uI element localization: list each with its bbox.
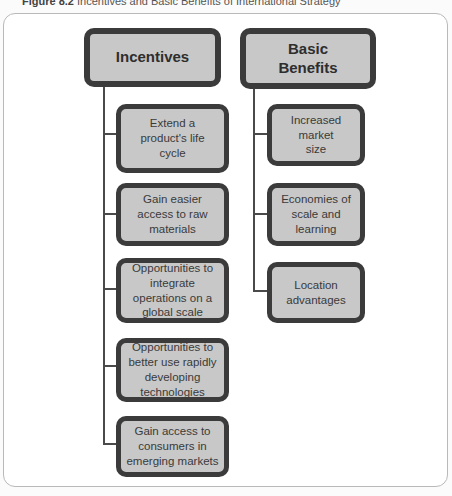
incentives-connector-1 bbox=[103, 133, 117, 135]
benefits-connector-1 bbox=[253, 133, 268, 135]
benefit-text-1: Increased market size bbox=[287, 113, 346, 158]
incentive-text-2: Gain easier access to raw materials bbox=[133, 192, 211, 237]
benefit-text-3: Location advantages bbox=[282, 278, 349, 308]
incentive-box-4: Opportunities to better use rapidly deve… bbox=[116, 338, 229, 402]
benefit-box-2: Economies of scale and learning bbox=[267, 183, 365, 246]
incentive-box-3: Opportunities to integrate operations on… bbox=[116, 258, 229, 323]
incentives-connector-3 bbox=[103, 288, 117, 290]
incentive-text-1: Extend a product's life cycle bbox=[136, 116, 208, 161]
incentives-header: Incentives bbox=[84, 28, 221, 87]
incentives-connector-2 bbox=[103, 213, 117, 215]
incentives-trunk-line bbox=[103, 87, 105, 444]
incentive-box-1: Extend a product's life cycle bbox=[116, 104, 229, 173]
basic-benefits-header: Basic Benefits bbox=[240, 28, 376, 89]
figure-title: Incentives and Basic Benefits of Interna… bbox=[77, 0, 341, 7]
benefits-connector-3 bbox=[253, 290, 268, 292]
figure-label: Figure 8.2 bbox=[22, 0, 74, 7]
incentive-text-4: Opportunities to better use rapidly deve… bbox=[124, 340, 220, 400]
incentive-text-5: Gain access to consumers in emerging mar… bbox=[122, 424, 222, 469]
figure-caption: Figure 8.2 Incentives and Basic Benefits… bbox=[22, 0, 341, 7]
benefit-box-1: Increased market size bbox=[267, 104, 365, 166]
incentive-box-2: Gain easier access to raw materials bbox=[116, 183, 229, 246]
incentives-connector-5 bbox=[103, 443, 117, 445]
diagram-frame bbox=[3, 13, 448, 487]
benefits-trunk-line bbox=[253, 89, 255, 292]
benefit-box-3: Location advantages bbox=[267, 262, 365, 323]
incentive-text-3: Opportunities to integrate operations on… bbox=[128, 261, 217, 321]
incentive-box-5: Gain access to consumers in emerging mar… bbox=[116, 416, 229, 477]
basic-benefits-title: Basic Benefits bbox=[274, 40, 341, 78]
benefit-text-2: Economies of scale and learning bbox=[277, 192, 355, 237]
incentives-title: Incentives bbox=[112, 48, 193, 67]
incentives-connector-4 bbox=[103, 365, 117, 367]
benefits-connector-2 bbox=[253, 213, 268, 215]
